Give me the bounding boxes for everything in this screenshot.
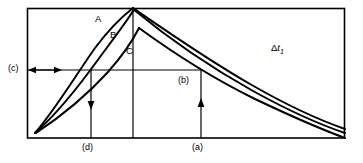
callout-a-arrowhead-up	[198, 98, 205, 107]
curve-label-c: C	[126, 46, 133, 56]
region-label-delta-t1: Δt1	[271, 43, 284, 55]
callout-c-arrowhead-right	[54, 67, 62, 73]
callout-label-c: (c)	[8, 64, 19, 73]
callout-label-d: (d)	[82, 143, 93, 152]
region-label-subscript: 1	[280, 48, 284, 55]
curve-b-falling	[133, 9, 345, 133]
callout-c-arrowhead-left	[28, 67, 36, 73]
curve-label-a: A	[95, 14, 101, 24]
callout-label-b: (b)	[178, 76, 189, 85]
figure-container: A B C Δt1 (c) (b) (d) (a)	[0, 0, 363, 163]
callout-d-arrowhead-down	[88, 101, 95, 110]
curve-a-falling	[133, 8, 345, 129]
curve-label-b: B	[110, 30, 116, 40]
callout-label-a: (a)	[192, 143, 203, 152]
